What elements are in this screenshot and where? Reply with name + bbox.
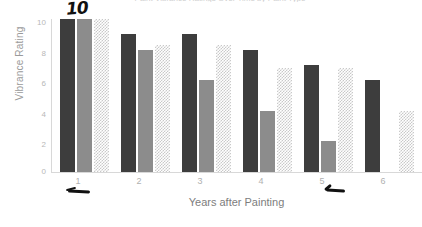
x-tick-label: 6 xyxy=(363,176,403,186)
bar-chart: Paint Vibrance Ratings Over Time by Pain… xyxy=(0,0,422,227)
bar-dotted xyxy=(399,111,414,172)
bar-dotted xyxy=(216,45,231,172)
bar-dark xyxy=(60,19,75,172)
x-tick-label: 2 xyxy=(119,176,159,186)
y-axis-ticks: 10 8 6 4 2 0 xyxy=(10,0,46,227)
bar-dotted xyxy=(94,19,109,172)
y-tick-label: 6 xyxy=(24,80,46,88)
bar-dark xyxy=(121,34,136,172)
y-tick-label: 10 xyxy=(24,19,46,27)
y-tick-label: 0 xyxy=(24,168,46,176)
bar-medium xyxy=(77,19,92,172)
bar-dotted xyxy=(155,45,170,172)
bar-medium xyxy=(321,141,336,172)
bar-medium xyxy=(199,80,214,172)
bar-dark xyxy=(243,50,258,172)
plot-area xyxy=(52,19,422,172)
handwritten-underline-group-1 xyxy=(68,189,90,193)
bar-medium xyxy=(138,50,153,172)
y-tick-label: 4 xyxy=(24,111,46,119)
x-tick-label: 3 xyxy=(180,176,220,186)
bar-dotted xyxy=(277,68,292,172)
bar-dark xyxy=(304,65,319,172)
x-tick-label: 4 xyxy=(241,176,281,186)
bar-dark xyxy=(365,80,380,172)
x-axis-label: Years after Painting xyxy=(51,196,422,208)
bar-medium xyxy=(260,111,275,172)
chart-title: Paint Vibrance Ratings Over Time by Pain… xyxy=(105,0,335,2)
x-tick-label: 5 xyxy=(302,176,342,186)
x-axis-line xyxy=(51,172,422,173)
x-tick-label: 1 xyxy=(58,176,98,186)
y-tick-label: 2 xyxy=(24,141,46,149)
bar-dotted xyxy=(338,68,353,172)
bar-dark xyxy=(182,34,197,172)
handwritten-ten-annotation: 10 xyxy=(65,0,88,19)
handwritten-underline-group-5 xyxy=(326,188,345,192)
y-tick-label: 8 xyxy=(24,50,46,58)
